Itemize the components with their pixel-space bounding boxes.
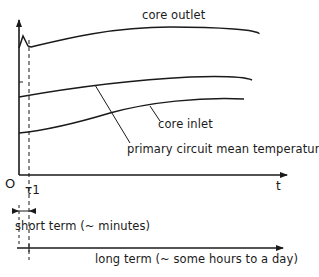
temperature-transient-diagram: core outlet core inlet primary circuit m… (0, 0, 319, 277)
label-short-term: short term (~ minutes) (15, 221, 150, 233)
short-term-arrow-left (12, 208, 19, 214)
short-term-arrow-right (29, 208, 36, 214)
curve-core-outlet (19, 27, 259, 48)
curve-primary-mean (19, 77, 252, 97)
diagram-graphics (0, 0, 319, 277)
label-core-inlet: core inlet (158, 119, 213, 131)
label-long-term: long term (~ some hours to a day) (95, 254, 298, 266)
leader-primary-mean (95, 85, 130, 143)
label-core-outlet: core outlet (142, 10, 205, 22)
label-origin: O (5, 177, 15, 190)
label-tau1: τ1 (25, 184, 40, 196)
label-time-axis: t (276, 180, 281, 192)
label-primary-mean: primary circuit mean temperature (127, 144, 319, 156)
